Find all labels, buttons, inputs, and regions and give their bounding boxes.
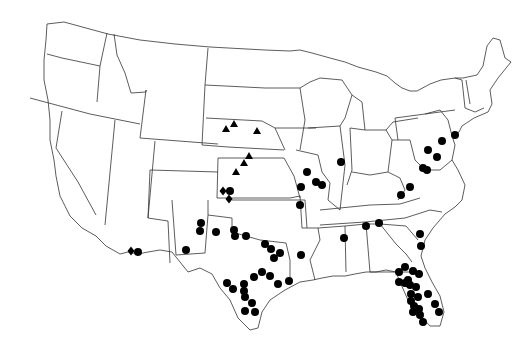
circle-marker xyxy=(406,183,414,191)
circle-marker xyxy=(241,307,249,315)
circle-marker xyxy=(134,248,142,256)
circle-marker xyxy=(297,251,305,259)
circle-marker xyxy=(196,227,204,235)
circle-marker xyxy=(424,146,432,154)
circle-marker xyxy=(433,153,441,161)
circle-marker xyxy=(419,318,427,326)
circle-marker xyxy=(438,137,446,145)
circle-marker xyxy=(226,187,234,195)
circle-marker xyxy=(407,290,415,298)
circle-marker xyxy=(435,308,443,316)
circle-marker xyxy=(258,268,266,276)
circle-marker xyxy=(182,246,190,254)
circle-marker xyxy=(267,245,275,253)
circle-marker xyxy=(241,293,249,301)
circle-marker xyxy=(242,232,250,240)
circle-marker xyxy=(416,311,424,319)
circle-marker xyxy=(248,299,256,307)
circle-marker xyxy=(416,230,424,238)
circle-marker xyxy=(297,183,305,191)
circle-marker xyxy=(250,273,258,281)
circle-marker xyxy=(303,168,311,176)
circle-marker xyxy=(397,191,405,199)
circle-marker xyxy=(395,278,403,286)
circle-marker xyxy=(415,270,423,278)
circle-marker xyxy=(229,285,237,293)
circle-marker xyxy=(285,277,293,285)
circle-marker xyxy=(414,293,422,301)
circle-marker xyxy=(362,222,370,230)
state-outlines xyxy=(30,22,511,330)
circle-marker xyxy=(223,279,231,287)
circle-marker xyxy=(431,300,439,308)
circle-marker xyxy=(340,234,348,242)
us-map xyxy=(0,0,531,355)
circle-marker xyxy=(375,219,383,227)
circle-marker xyxy=(451,131,459,139)
circle-marker xyxy=(423,166,431,174)
circle-marker xyxy=(401,263,409,271)
circle-marker xyxy=(270,254,278,262)
circle-marker xyxy=(274,280,282,288)
circle-marker xyxy=(266,272,274,280)
circle-marker xyxy=(318,181,326,189)
circle-marker xyxy=(412,283,420,291)
circle-marker xyxy=(240,280,248,288)
circle-marker xyxy=(417,242,425,250)
circle-marker xyxy=(424,290,432,298)
circle-marker xyxy=(409,308,417,316)
circle-marker xyxy=(251,308,259,316)
circle-marker xyxy=(231,232,239,240)
circle-marker xyxy=(296,201,304,209)
circle-marker xyxy=(337,158,345,166)
circle-marker xyxy=(212,228,220,236)
circle-marker xyxy=(197,219,205,227)
